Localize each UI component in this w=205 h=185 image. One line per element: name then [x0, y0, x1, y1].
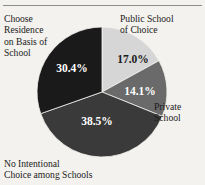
slice-value-choose-residence: 30.4%	[56, 62, 88, 74]
category-label-no-intentional: No Intentional Choice among Schools	[4, 158, 154, 181]
category-label-choose-residence: Choose Residence on Basis of School	[4, 13, 76, 59]
slice-value-no-intentional: 38.5%	[81, 115, 113, 127]
pie-chart-figure: 17.0% 14.1% 38.5% 30.4% Choose Residence…	[0, 0, 205, 185]
category-label-public-school: Public School of Choice	[120, 13, 202, 36]
category-label-private-school: Private School	[154, 101, 202, 124]
slice-value-private-school: 14.1%	[124, 85, 156, 97]
slice-value-public-school: 17.0%	[117, 53, 149, 65]
